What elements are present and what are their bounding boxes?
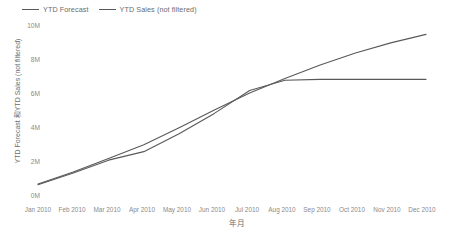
series-line-ytd-forecast <box>38 34 426 184</box>
line-chart: YTD Forecast YTD Sales (not filtered) YT… <box>0 0 454 238</box>
series-line-ytd-sales <box>38 79 426 184</box>
plot-area <box>0 0 454 238</box>
